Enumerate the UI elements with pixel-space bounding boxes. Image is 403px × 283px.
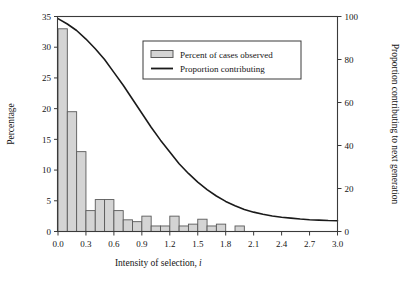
- x-tick-label: 2.4: [276, 239, 288, 249]
- y2-tick-label: 60: [345, 98, 355, 108]
- bar: [198, 219, 207, 231]
- x-tick-label: 0.3: [80, 239, 92, 249]
- y-tick-label: 20: [42, 104, 52, 114]
- bar: [207, 226, 216, 232]
- bar: [170, 216, 179, 231]
- x-tick-label: 1.2: [164, 239, 175, 249]
- x-tick-label: 1.5: [192, 239, 204, 249]
- bar: [123, 220, 132, 232]
- y-tick-label: 25: [42, 73, 52, 83]
- x-axis-title-text: Intensity of selection,: [115, 258, 197, 268]
- x-tick-label: 1.8: [220, 239, 232, 249]
- x-tick-label: 0.6: [108, 239, 120, 249]
- y-tick-label: 5: [47, 196, 52, 206]
- bar: [77, 152, 86, 232]
- bar: [95, 200, 104, 232]
- y2-tick-label: 100: [345, 12, 359, 22]
- y2-axis-title: Proportion contributing to next generati…: [390, 44, 400, 205]
- bar: [151, 226, 160, 232]
- bar: [179, 226, 188, 232]
- figure-container: 0.00.30.60.91.21.51.82.12.42.73.0 051015…: [0, 0, 403, 283]
- legend-label-bars: Percent of cases observed: [180, 50, 273, 60]
- bar: [58, 29, 67, 232]
- bar: [86, 211, 95, 232]
- bar: [67, 112, 76, 232]
- legend-swatch-bar: [151, 51, 173, 58]
- bar: [188, 224, 197, 231]
- x-axis-title-variable: i: [199, 258, 202, 268]
- legend-label-line: Proportion contributing: [180, 64, 265, 74]
- bar: [235, 226, 244, 232]
- y-tick-label: 0: [47, 227, 52, 237]
- y2-tick-label: 20: [345, 184, 355, 194]
- bar: [133, 222, 142, 232]
- bar: [216, 224, 225, 231]
- bar: [105, 200, 114, 232]
- y2-tick-label: 40: [345, 141, 355, 151]
- y-tick-label: 30: [42, 42, 52, 52]
- y-tick-label: 10: [42, 165, 52, 175]
- x-tick-label: 0.9: [136, 239, 148, 249]
- y2-tick-label: 0: [345, 227, 350, 237]
- bar: [114, 211, 123, 232]
- y-tick-label: 35: [42, 12, 52, 22]
- x-tick-label: 3.0: [332, 239, 344, 249]
- x-axis-title: Intensity of selection, i: [115, 258, 202, 268]
- bar: [142, 216, 151, 231]
- y2-tick-label: 80: [345, 55, 355, 65]
- y-axis-title: Percentage: [6, 103, 16, 145]
- histogram-with-line-chart: 0.00.30.60.91.21.51.82.12.42.73.0 051015…: [0, 0, 403, 283]
- y-tick-label: 15: [42, 135, 52, 145]
- x-tick-label: 2.7: [304, 239, 316, 249]
- bar: [160, 226, 169, 232]
- chart-legend: Percent of cases observed Proportion con…: [143, 41, 301, 79]
- x-tick-label: 0.0: [52, 239, 64, 249]
- x-tick-label: 2.1: [248, 239, 259, 249]
